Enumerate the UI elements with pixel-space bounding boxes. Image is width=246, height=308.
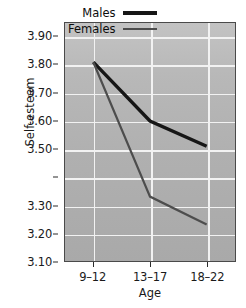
y-axis-tick-label: 3.90 (27, 29, 52, 43)
legend-swatch-females (123, 28, 157, 30)
y-axis-tick-label: 3.20 (27, 227, 52, 241)
y-axis-tick-mark (53, 149, 58, 150)
data-series-lines (65, 23, 235, 261)
y-axis-tick-label: 3.50 (27, 142, 52, 156)
y-axis-tick-label: 3.30 (27, 199, 52, 213)
legend-label-females: Females (68, 22, 116, 36)
x-axis-tick-mark (150, 262, 151, 267)
plot-area (64, 22, 236, 262)
x-axis-tick-labels: 9–1213–1718–22 (64, 262, 236, 286)
line-chart-figure: Self-esteem 3.903.803.703.603.503.303.20… (0, 0, 246, 308)
x-axis-tick-label: 18–22 (190, 270, 224, 284)
y-axis-tick-label: 3.80 (27, 57, 52, 71)
y-axis-tick-mark (53, 120, 58, 121)
x-axis-tick-mark (93, 262, 94, 267)
x-axis-tick-mark (207, 262, 208, 267)
y-axis-tick-mark (53, 92, 58, 93)
legend-swatch-males (123, 11, 157, 14)
chart-legend: Males Females (68, 6, 157, 36)
y-axis-tick-mark (53, 262, 58, 263)
y-axis-tick-labels: 3.903.803.703.603.503.303.203.10 (0, 0, 58, 308)
y-axis-tick-mark (53, 177, 58, 178)
x-axis-title: Age (64, 286, 236, 300)
legend-item-females: Females (68, 22, 157, 36)
series-line-females (93, 62, 206, 224)
y-axis-tick-mark (53, 36, 58, 37)
x-axis-tick-label: 9–12 (79, 270, 106, 284)
legend-item-males: Males (68, 6, 157, 20)
y-axis-tick-mark (53, 233, 58, 234)
y-axis-tick-label: 3.70 (27, 86, 52, 100)
y-axis-tick-label: 3.10 (27, 255, 52, 269)
legend-label-males: Males (82, 6, 115, 20)
y-axis-tick-mark (53, 205, 58, 206)
y-axis-tick-label: 3.60 (27, 114, 52, 128)
x-axis-tick-label: 13–17 (133, 270, 167, 284)
y-axis-tick-mark (53, 64, 58, 65)
